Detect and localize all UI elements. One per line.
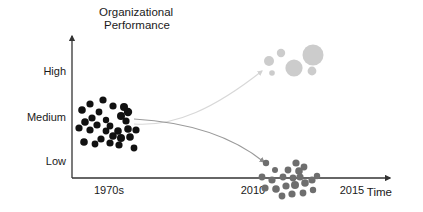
data-point [268,176,275,183]
x-axis-title: Time [367,186,392,198]
data-point [86,126,93,133]
data-point [301,164,308,171]
data-point [109,102,116,109]
data-point [75,124,82,131]
x-tick-label-2015: 2015 [340,184,364,196]
chart-figure: Organizational Performance High Medium L… [0,0,423,212]
data-point [261,184,268,191]
series-group-low [259,159,321,199]
divergence-arrow-down [134,119,264,162]
data-point [259,174,266,181]
data-point [109,132,117,140]
series-group-high [264,45,324,77]
data-point [292,159,299,166]
y-axis-title-line1: Organizational [99,6,173,18]
data-point [115,141,122,148]
x-tick-label-1970s: 1970s [94,184,124,196]
data-point [272,185,280,193]
data-point [122,117,129,124]
data-point [106,139,113,146]
data-point [97,135,104,142]
data-point [300,190,307,197]
data-point [96,109,103,116]
data-point [282,182,289,189]
data-point [285,167,292,174]
y-axis-title-line2: Performance [104,19,170,31]
data-point [263,160,269,166]
data-point [296,173,303,180]
data-point [303,45,324,66]
x-tick-label-2010: 2010 [241,184,265,196]
data-point [99,96,106,103]
data-point [310,187,316,193]
scatter-plot-canvas: Organizational Performance High Medium L… [0,0,423,212]
data-point [124,108,132,116]
data-point [88,114,95,121]
y-tick-label-medium: Medium [27,111,66,123]
data-point [308,67,317,76]
data-point [277,49,285,57]
data-point [264,56,274,66]
data-point [301,179,309,187]
data-point [81,118,89,126]
data-point [290,175,297,182]
data-point [126,133,134,141]
data-point [103,117,109,123]
data-point [280,174,287,181]
data-point [124,125,132,133]
data-point [285,59,302,76]
data-point [269,70,275,76]
data-point [80,138,88,146]
y-tick-label-low: Low [46,155,66,167]
data-point [131,145,138,152]
data-point [93,121,100,128]
data-point [86,100,93,107]
data-point [103,128,110,135]
y-tick-label-high: High [43,65,66,77]
series-group-1970s [75,96,139,151]
data-point [291,181,299,189]
data-point [117,134,125,142]
data-point [314,173,320,179]
data-point [272,167,278,173]
divergence-arrow-up [134,71,262,124]
data-point [78,106,86,114]
data-point [279,193,286,200]
data-point [288,190,295,197]
data-point [92,141,99,148]
data-point [132,126,139,133]
